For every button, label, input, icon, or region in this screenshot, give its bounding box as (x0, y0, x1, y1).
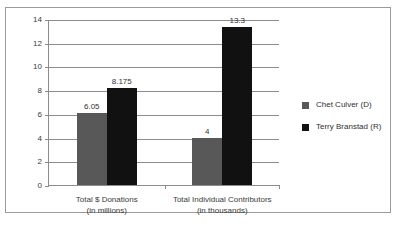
y-axis-tick-mark (45, 20, 49, 21)
bar-value-label: 13.3 (229, 17, 245, 25)
bar-value-label: 6.05 (84, 103, 100, 111)
bar-value-label: 4 (205, 128, 209, 136)
y-axis-tick-label: 6 (38, 111, 42, 119)
y-axis-tick-mark (45, 162, 49, 163)
x-axis-category-label: Total $ Donations(in millions) (76, 194, 138, 216)
category-label-line: Total $ Donations (76, 194, 138, 205)
bar-0-0: 6.05 (77, 113, 107, 185)
plot-region: 02468101214 6.058.175413.3 Total $ Donat… (48, 20, 279, 186)
y-axis-tick-label: 14 (33, 16, 42, 24)
category-label-line: (in millions) (76, 205, 138, 216)
y-axis-tick-mark (45, 44, 49, 45)
x-axis-category-label: Total Individual Contributors(in thousan… (173, 194, 272, 216)
bar-1-1: 13.3 (222, 27, 252, 185)
legend-swatch-icon (302, 102, 309, 109)
legend-label: Chet Culver (D) (316, 101, 372, 109)
category-label-line: (in thousands) (173, 205, 272, 216)
legend-item-0[interactable]: Chet Culver (D) (302, 94, 381, 116)
legend-swatch-icon (302, 124, 309, 131)
y-axis-tick-label: 0 (38, 182, 42, 190)
y-axis-tick-mark (45, 139, 49, 140)
bar-value-label: 8.175 (112, 78, 132, 86)
plot-area: 02468101214 6.058.175413.3 Total $ Donat… (48, 20, 279, 186)
bar-1-0: 8.175 (107, 88, 137, 185)
category-label-line: Total Individual Contributors (173, 194, 272, 205)
y-axis-tick-label: 2 (38, 158, 42, 166)
y-axis-tick-label: 10 (33, 63, 42, 71)
legend-item-1[interactable]: Terry Branstad (R) (302, 116, 381, 138)
y-axis-tick-mark (45, 91, 49, 92)
y-axis-tick-mark (45, 67, 49, 68)
legend-label: Terry Branstad (R) (316, 123, 381, 131)
y-axis-tick-mark (45, 186, 49, 187)
x-axis-tick-mark (279, 185, 280, 189)
bar-0-1: 4 (192, 138, 222, 185)
y-axis-tick-mark (45, 115, 49, 116)
y-axis-tick-label: 4 (38, 135, 42, 143)
y-axis-tick-label: 8 (38, 87, 42, 95)
chart-legend: Chet Culver (D)Terry Branstad (R) (302, 94, 381, 138)
x-axis-tick-mark (165, 185, 166, 189)
y-axis-tick-label: 12 (33, 40, 42, 48)
chart-frame: 02468101214 6.058.175413.3 Total $ Donat… (5, 7, 391, 213)
